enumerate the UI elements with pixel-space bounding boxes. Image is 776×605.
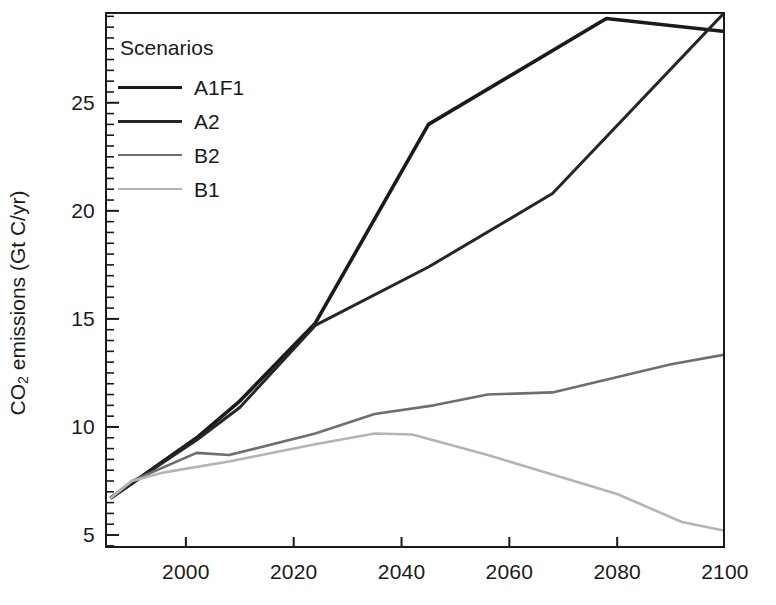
- chart-legend: Scenarios A1F1A2B2B1: [118, 36, 328, 206]
- legend-entry-b1[interactable]: B1: [118, 172, 328, 206]
- chart-figure: CO2 emissions (Gt C/yr) 510152025 200020…: [0, 0, 776, 605]
- legend-label: B2: [194, 145, 220, 166]
- legend-swatch-b1: [118, 188, 182, 190]
- x-axis-tick-labels: 200020202040206020802100: [0, 560, 776, 594]
- legend-swatch-a1f1: [118, 86, 182, 89]
- legend-entry-a1f1[interactable]: A1F1: [118, 70, 328, 104]
- x-tick-label: 2040: [378, 560, 426, 584]
- x-tick-label: 2000: [162, 560, 210, 584]
- legend-entry-a2[interactable]: A2: [118, 104, 328, 138]
- y-tick-label: 15: [71, 307, 95, 331]
- y-tick-label: 10: [71, 415, 95, 439]
- x-tick-label: 2060: [486, 560, 534, 584]
- legend-title: Scenarios: [120, 36, 328, 60]
- x-tick-label: 2020: [270, 560, 318, 584]
- legend-entry-b2[interactable]: B2: [118, 138, 328, 172]
- legend-label: A1F1: [194, 77, 244, 98]
- y-tick-label: 25: [71, 91, 95, 115]
- y-tick-label: 5: [83, 523, 95, 547]
- y-tick-label: 20: [71, 199, 95, 223]
- x-tick-label: 2100: [701, 560, 749, 584]
- legend-swatch-a2: [118, 120, 182, 123]
- legend-label: B1: [194, 179, 220, 200]
- legend-swatch-b2: [118, 154, 182, 156]
- legend-entries: A1F1A2B2B1: [118, 70, 328, 206]
- legend-label: A2: [194, 111, 220, 132]
- x-tick-label: 2080: [593, 560, 641, 584]
- y-axis-tick-labels: 510152025: [0, 0, 95, 605]
